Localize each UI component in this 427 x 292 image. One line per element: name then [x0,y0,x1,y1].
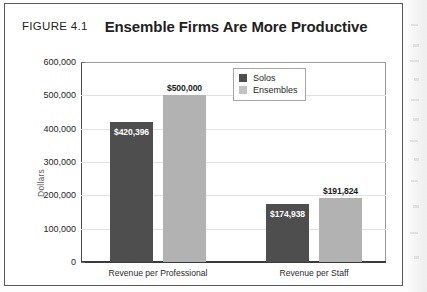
y-axis-tick-label: 300,000 [10,157,76,167]
scan-page-edge [408,0,427,292]
bar-value-label: $420,396 [110,127,153,137]
bar-value-label: $500,000 [163,83,206,93]
legend-label-solos: Solos [253,73,276,83]
bar-solos-1: $420,396 [110,122,153,262]
legend-label-ensembles: Ensembles [253,85,298,95]
bar-solos-2: $174,938 [266,204,309,262]
figure-header: FIGURE 4.1 Ensemble Firms Are More Produ… [5,13,402,39]
legend-swatch-ensembles-icon [239,86,247,94]
y-axis-tick-label: 0 [10,257,76,267]
y-axis-tick-label: 400,000 [10,124,76,134]
y-axis-tick-label: 500,000 [10,90,76,100]
figure-number: FIGURE 4.1 [22,20,88,32]
bar-ensembles-1: $500,000 [163,95,206,262]
y-axis-tick-label: 600,000 [10,57,76,67]
x-axis-category-label: Revenue per Staff [279,268,348,278]
legend-swatch-solos-icon [239,74,247,82]
figure-container: FIGURE 4.1 Ensemble Firms Are More Produ… [4,3,403,286]
bar-value-label: $191,824 [319,186,362,196]
x-axis-category-label: Revenue per Professional [109,268,208,278]
y-axis-tick-label: 100,000 [10,224,76,234]
y-axis-tick-mark [81,262,85,263]
y-axis-tick-label: 200,000 [10,190,76,200]
legend-item-ensembles: Ensembles [239,84,298,96]
bar-chart: Dollars 600,000500,000400,000300,000200,… [5,44,401,287]
bar-ensembles-2: $191,824 [319,198,362,262]
chart-legend: Solos Ensembles [233,68,306,101]
legend-item-solos: Solos [239,72,298,84]
figure-title: Ensemble Firms Are More Productive [105,18,368,35]
y-axis-tick-mark [81,62,85,63]
bar-value-label: $174,938 [266,209,309,219]
